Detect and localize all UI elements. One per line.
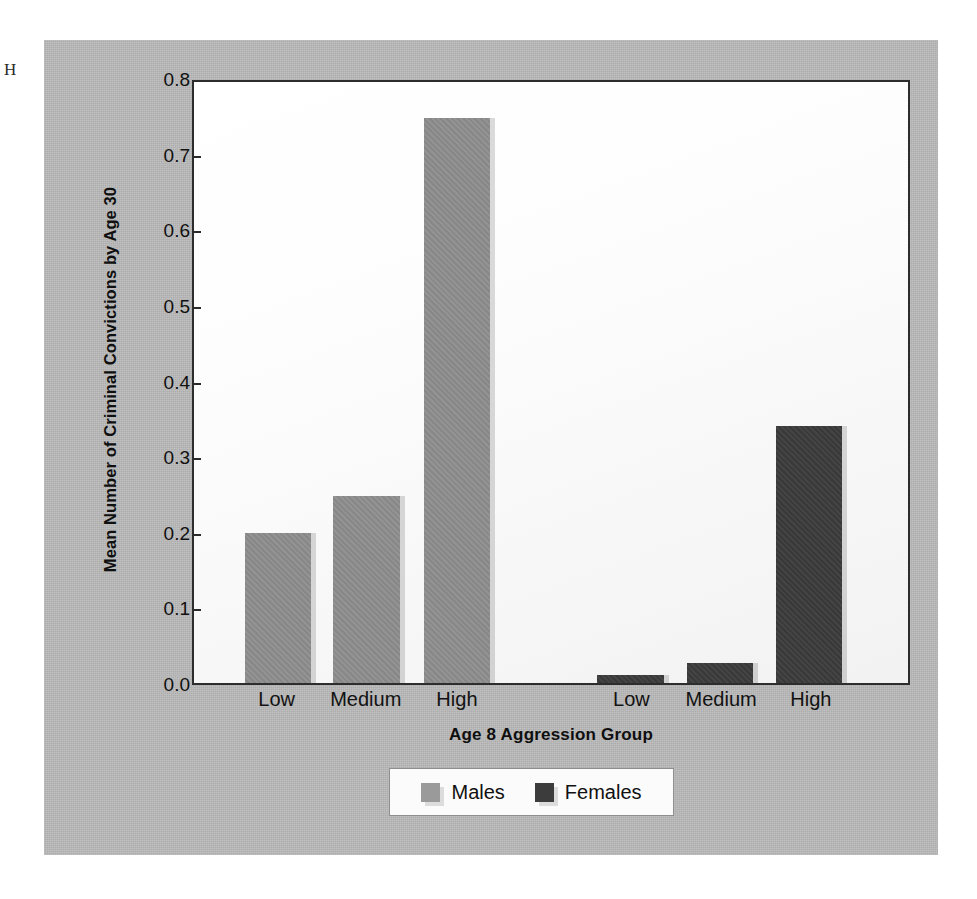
figure-panel: Mean Number of Criminal Convictions by A… bbox=[44, 40, 938, 855]
y-tick-mark bbox=[192, 458, 201, 460]
y-tick-label: 0.6 bbox=[136, 220, 190, 242]
legend-label: Females bbox=[565, 781, 642, 804]
y-tick-mark bbox=[192, 156, 201, 158]
y-tick-label: 0.0 bbox=[136, 674, 190, 696]
plot-area bbox=[192, 80, 910, 685]
x-axis-title: Age 8 Aggression Group bbox=[192, 725, 910, 745]
x-tick-label: Low bbox=[258, 688, 295, 711]
bar-males-low bbox=[245, 533, 311, 683]
y-tick-label: 0.1 bbox=[136, 598, 190, 620]
x-tick-label: Medium bbox=[686, 688, 757, 711]
y-tick-mark bbox=[192, 231, 201, 233]
chart-legend: MalesFemales bbox=[389, 768, 674, 816]
y-tick-mark bbox=[192, 307, 201, 309]
x-tick-label: Low bbox=[613, 688, 650, 711]
bar-females-medium bbox=[687, 663, 753, 683]
bar-males-high bbox=[424, 118, 490, 683]
x-tick-label: Medium bbox=[330, 688, 401, 711]
males-swatch bbox=[421, 783, 440, 802]
y-tick-label: 0.5 bbox=[136, 296, 190, 318]
y-tick-label: 0.7 bbox=[136, 145, 190, 167]
y-tick-mark bbox=[192, 609, 201, 611]
legend-entry-females: Females bbox=[535, 781, 642, 804]
x-tick-label: High bbox=[436, 688, 477, 711]
y-axis-title: Mean Number of Criminal Convictions by A… bbox=[101, 100, 120, 660]
y-tick-label: 0.2 bbox=[136, 523, 190, 545]
x-tick-label: High bbox=[790, 688, 831, 711]
y-axis-tick-labels: 0.80.70.60.50.40.30.20.10.0 bbox=[130, 80, 190, 725]
y-tick-mark bbox=[192, 383, 201, 385]
bar-females-high bbox=[776, 426, 842, 683]
y-tick-label: 0.8 bbox=[136, 69, 190, 91]
bar-females-low bbox=[597, 675, 663, 683]
legend-label: Males bbox=[451, 781, 504, 804]
page-edge-artifact: H bbox=[4, 60, 15, 80]
legend-entry-males: Males bbox=[421, 781, 504, 804]
x-axis-tick-labels: LowMediumHighLowMediumHigh bbox=[192, 688, 910, 720]
y-tick-label: 0.4 bbox=[136, 372, 190, 394]
y-tick-label: 0.3 bbox=[136, 447, 190, 469]
y-tick-mark bbox=[192, 534, 201, 536]
females-swatch bbox=[535, 783, 554, 802]
bar-males-medium bbox=[333, 496, 399, 683]
bars-layer bbox=[194, 82, 908, 683]
